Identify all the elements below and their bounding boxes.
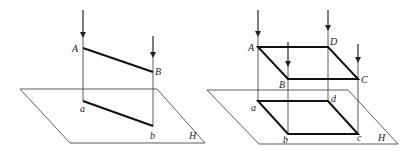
label-c-right: c <box>357 132 362 143</box>
diagram-svg: A B a b H A D B C a d b c H <box>0 0 411 159</box>
label-H-right: H <box>377 132 386 143</box>
label-A-left: A <box>71 43 79 54</box>
plane-h-left <box>20 89 205 143</box>
label-B-left: B <box>155 66 161 77</box>
label-a-left: a <box>80 103 85 114</box>
segment-AB <box>83 48 153 72</box>
label-b-right: b <box>283 134 288 145</box>
right-figure: A D B C a d b c H <box>207 10 398 145</box>
plane-h-right <box>207 90 398 144</box>
label-B-right: B <box>279 79 285 90</box>
label-d-right: d <box>331 93 337 104</box>
left-figure: A B a b H <box>20 10 205 143</box>
quad-ABCD <box>258 47 358 79</box>
label-a-right: a <box>251 102 256 113</box>
label-D-right: D <box>329 36 338 47</box>
quad-abcd <box>258 101 358 134</box>
label-H-left: H <box>188 130 197 141</box>
label-A-right: A <box>247 42 255 53</box>
label-C-right: C <box>361 74 368 85</box>
projection-diagram: A B a b H A D B C a d b c H <box>0 0 411 159</box>
label-b-left: b <box>150 130 155 141</box>
segment-ab <box>83 101 153 126</box>
